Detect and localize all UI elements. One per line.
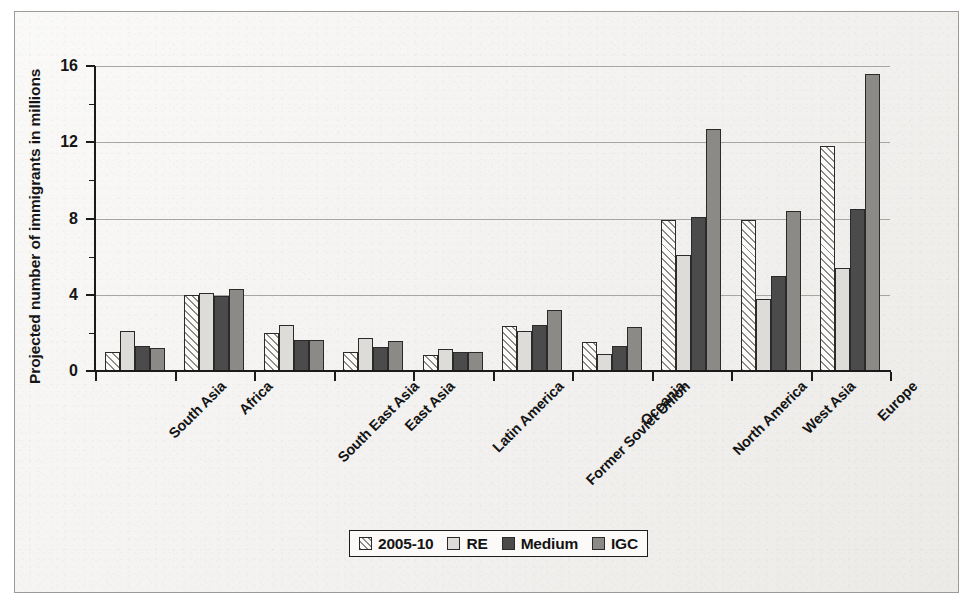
y-tick-label: 8 [44, 210, 78, 228]
bar-group [184, 66, 244, 371]
y-tick-mark-16 [86, 65, 95, 67]
bar [294, 340, 309, 371]
bar [423, 355, 438, 371]
y-tick-mark-4 [86, 294, 95, 296]
x-tick-mark [493, 372, 495, 381]
x-tick-mark [890, 372, 892, 381]
y-tick-mark-12 [86, 141, 95, 143]
legend-item[interactable]: 2005-10 [359, 535, 433, 553]
bar-group [820, 66, 880, 371]
y-tick-minor [89, 333, 95, 334]
legend-label: IGC [611, 535, 638, 553]
bar [388, 341, 403, 372]
bar-group [502, 66, 562, 371]
bar-group [661, 66, 721, 371]
bar [264, 333, 279, 371]
legend-label: Medium [521, 535, 578, 553]
legend-swatch-icon [359, 537, 372, 550]
plot-area [95, 66, 890, 371]
bar [786, 211, 801, 371]
bar [453, 352, 468, 371]
y-tick-label: 4 [44, 286, 78, 304]
bar [517, 331, 532, 371]
bar [706, 129, 721, 371]
bar-group [741, 66, 801, 371]
y-tick-minor [89, 180, 95, 181]
y-tick-label: 0 [44, 362, 78, 380]
y-tick-minor [89, 257, 95, 258]
bar [835, 268, 850, 371]
bar [597, 354, 612, 371]
bar [229, 289, 244, 371]
bar [184, 295, 199, 371]
legend-swatch-icon [447, 537, 460, 550]
legend-swatch-icon [502, 537, 515, 550]
bar [199, 293, 214, 371]
bar [771, 276, 786, 371]
x-tick-mark [572, 372, 574, 381]
bar [105, 352, 120, 371]
bar [214, 296, 229, 371]
bar-group [423, 66, 483, 371]
x-tick-mark [811, 372, 813, 381]
bar [627, 327, 642, 371]
y-tick-mark-0 [86, 370, 95, 372]
bar-group [343, 66, 403, 371]
bar [343, 352, 358, 371]
bar [691, 217, 706, 371]
bar [120, 331, 135, 371]
legend-item[interactable]: RE [447, 535, 487, 553]
legend-label: RE [466, 535, 487, 553]
x-tick-mark [652, 372, 654, 381]
bar [279, 325, 294, 371]
bar [582, 342, 597, 371]
bar [309, 340, 324, 371]
bar [741, 220, 756, 371]
x-tick-mark [334, 372, 336, 381]
bar [547, 310, 562, 371]
legend-label: 2005-10 [378, 535, 433, 553]
x-tick-mark [731, 372, 733, 381]
x-tick-mark [254, 372, 256, 381]
legend-item[interactable]: IGC [592, 535, 638, 553]
bar-group [105, 66, 165, 371]
bar [865, 74, 880, 371]
y-tick-minor [89, 104, 95, 105]
y-tick-mark-8 [86, 218, 95, 220]
bar [756, 299, 771, 371]
bar [438, 349, 453, 371]
x-tick-mark [95, 372, 97, 381]
bar [373, 347, 388, 371]
bar [468, 352, 483, 371]
bar [135, 346, 150, 371]
y-tick-label: 12 [44, 133, 78, 151]
bar-group [264, 66, 324, 371]
x-tick-mark [175, 372, 177, 381]
bar-group [582, 66, 642, 371]
bar [850, 209, 865, 371]
bar [676, 255, 691, 371]
bar [150, 348, 165, 371]
bar [358, 338, 373, 371]
bar [502, 326, 517, 371]
bar [612, 346, 627, 371]
bar [661, 220, 676, 371]
bar [820, 146, 835, 371]
chart-legend: 2005-10REMediumIGC [349, 530, 648, 557]
legend-item[interactable]: Medium [502, 535, 578, 553]
x-tick-mark [413, 372, 415, 381]
legend-swatch-icon [592, 537, 605, 550]
y-tick-label: 16 [44, 57, 78, 75]
bar [532, 325, 547, 371]
